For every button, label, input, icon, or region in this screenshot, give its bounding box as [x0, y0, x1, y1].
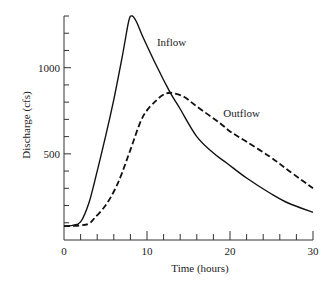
y-tick-label: 1000 [38, 62, 61, 74]
x-tick-label: 30 [308, 245, 320, 257]
labels-group: Time (hours) Discharge (cfs) [20, 91, 229, 275]
series-group: InflowOutflow [64, 16, 313, 226]
x-tick-label: 20 [225, 245, 237, 257]
inflow-label: Inflow [157, 36, 186, 48]
outflow-label: Outflow [223, 107, 260, 119]
y-tick-label: 500 [44, 148, 61, 160]
y-axis-title: Discharge (cfs) [20, 91, 33, 159]
hydrograph-chart: 50010000102030 InflowOutflow Time (hours… [0, 0, 333, 289]
x-axis-title: Time (hours) [171, 262, 229, 275]
axes: 50010000102030 [38, 16, 319, 257]
x-tick-label: 0 [61, 245, 67, 257]
x-tick-label: 10 [142, 245, 154, 257]
axis-lines [64, 16, 313, 240]
outflow-curve [64, 93, 313, 226]
inflow-curve [64, 16, 313, 226]
